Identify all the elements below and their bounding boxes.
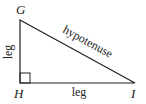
leg-label-vertical: leg <box>1 45 15 60</box>
vertex-label-h: H <box>13 86 24 101</box>
right-angle-marker <box>20 73 30 83</box>
triangle-diagram: G H I leg leg hypotenuse <box>0 0 146 104</box>
hypotenuse-label: hypotenuse <box>61 22 116 61</box>
leg-label-horizontal: leg <box>72 85 87 99</box>
vertex-label-i: I <box>130 86 136 101</box>
vertex-label-g: G <box>16 2 26 17</box>
